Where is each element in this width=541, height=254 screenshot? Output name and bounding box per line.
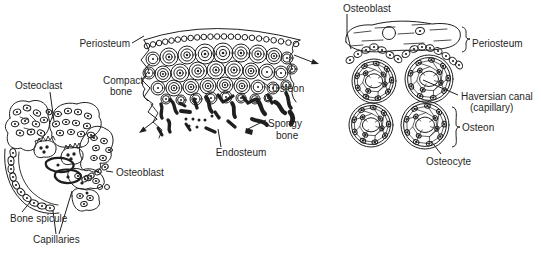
bone-spicule-figure bbox=[5, 100, 113, 213]
bone-spicule-label: Bone spicule bbox=[10, 213, 68, 224]
periosteum-right-brace bbox=[462, 27, 470, 52]
periosteum-mid-label: Periosteum bbox=[79, 38, 130, 49]
osteon-right-label: Osteon bbox=[462, 122, 494, 133]
osteon-mid-label: Osteon bbox=[272, 83, 304, 94]
osteoblast-left-label: Osteoblast bbox=[116, 167, 164, 178]
osteon-right-brace bbox=[452, 107, 460, 147]
periosteum-mid-callout-line bbox=[132, 36, 144, 43]
haversian-canal-label-line1: Haversian canal bbox=[461, 91, 533, 102]
endosteum-callout-line bbox=[218, 129, 221, 147]
compact-bone-label-line2: bone bbox=[110, 86, 133, 97]
bone-diagram-canvas: Osteoclast Osteoblast Bone spicule Capil… bbox=[0, 0, 541, 254]
compact-bone-label-line1: Compact bbox=[103, 75, 143, 86]
capillaries-label: Capillaries bbox=[33, 234, 80, 245]
spongy-bone-label-line2: bone bbox=[276, 130, 299, 141]
magnify-arrow-right bbox=[294, 55, 319, 64]
osteocyte-label: Osteocyte bbox=[426, 156, 471, 167]
osteon-mid-callout-line bbox=[263, 82, 270, 88]
osteoblast-right-label: Osteoblast bbox=[343, 3, 391, 14]
osteon-detail-figure bbox=[345, 21, 464, 149]
osteoclast-label: Osteoclast bbox=[15, 80, 62, 91]
osteoblast-left-dash bbox=[106, 171, 113, 172]
magnify-arrow-left bbox=[139, 119, 157, 133]
endosteum-label: Endosteum bbox=[216, 147, 267, 158]
haversian-canal-label-line2: (capillary) bbox=[470, 102, 513, 113]
spongy-bone-label-line1: Spongy bbox=[268, 118, 302, 129]
periosteum-right-label: Periosteum bbox=[472, 38, 523, 49]
bone-diagram: Osteoclast Osteoblast Bone spicule Capil… bbox=[0, 0, 541, 254]
